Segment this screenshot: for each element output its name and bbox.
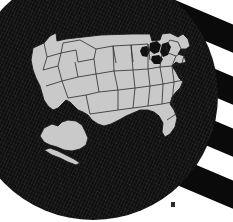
screenshot-canvas <box>0 0 233 222</box>
corner-dot-marker <box>171 202 175 207</box>
